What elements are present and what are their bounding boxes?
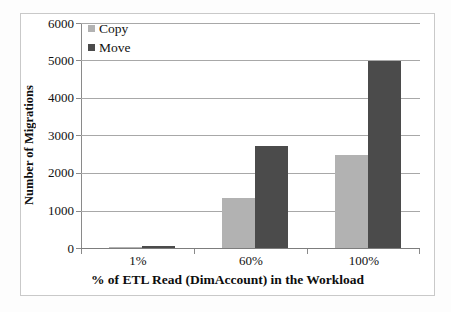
bar-copy-100pct <box>335 155 368 248</box>
bar-copy-1pct <box>109 247 142 248</box>
legend-swatch-copy-icon <box>88 25 95 32</box>
legend-swatch-move-icon <box>88 44 95 51</box>
x-axis-title: % of ETL Read (DimAccount) in the Worklo… <box>20 272 435 288</box>
y-axis-tick-labels: 6000 5000 4000 3000 2000 1000 0 <box>11 0 74 312</box>
legend-entry-move: Move <box>88 39 168 56</box>
x-tick-mark-2 <box>307 249 308 254</box>
y-tick-label-1000: 1000 <box>14 204 74 217</box>
legend-label-copy: Copy <box>99 22 128 36</box>
bar-move-100pct <box>368 61 401 248</box>
y-tick-label-5000: 5000 <box>14 54 74 67</box>
y-tick-label-4000: 4000 <box>14 91 74 104</box>
x-tick-mark-1 <box>194 249 195 254</box>
y-tick-label-0: 0 <box>14 242 74 255</box>
legend-entry-copy: Copy <box>88 20 168 37</box>
x-tick-label-60pct: 60% <box>211 254 291 268</box>
gridline-0 <box>81 248 420 249</box>
x-tick-mark-start <box>81 249 82 254</box>
y-tick-label-6000: 6000 <box>14 17 74 30</box>
x-tick-mark-end <box>419 249 420 254</box>
x-tick-label-1pct: 1% <box>98 254 178 268</box>
chart-figure: Number of Migrations 6000 5000 4000 3000… <box>0 0 451 312</box>
legend-label-move: Move <box>99 41 131 55</box>
bar-move-1pct <box>142 246 175 248</box>
bar-move-60pct <box>255 146 288 248</box>
chart-legend: Copy Move <box>88 20 168 58</box>
y-tick-label-2000: 2000 <box>14 166 74 179</box>
y-tick-label-3000: 3000 <box>14 129 74 142</box>
bar-copy-60pct <box>222 198 255 248</box>
x-tick-label-100pct: 100% <box>324 254 404 268</box>
